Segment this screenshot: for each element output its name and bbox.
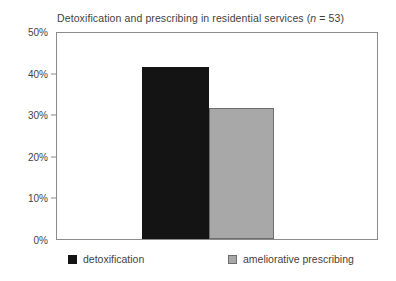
bars-layer [57, 33, 377, 239]
chart-title-prefix: Detoxification and prescribing in reside… [57, 12, 310, 24]
bar-detoxification [142, 67, 209, 239]
legend-entry-detoxification: detoxification [68, 253, 144, 265]
y-axis-tick-label: 20% [28, 151, 48, 162]
y-axis-tick-label: 0% [34, 235, 48, 246]
y-axis-tick-labels: 50%40%30%20%10%0% [0, 32, 48, 240]
y-axis-tick-label: 30% [28, 110, 48, 121]
bar-chart-figure: Detoxification and prescribing in reside… [0, 0, 396, 281]
y-axis-tick-label: 10% [28, 193, 48, 204]
chart-title: Detoxification and prescribing in reside… [57, 12, 344, 24]
bar-ameliorative-prescribing [209, 108, 274, 239]
legend-entry-label: ameliorative prescribing [243, 253, 354, 265]
chart-legend: detoxificationameliorative prescribing [56, 253, 378, 271]
black-square-swatch [68, 255, 77, 264]
legend-entry-label: detoxification [83, 253, 144, 265]
gray-square-swatch [228, 255, 237, 264]
y-axis-tick-label: 40% [28, 68, 48, 79]
legend-entry-ameliorative-prescribing: ameliorative prescribing [228, 253, 354, 265]
y-axis-tick-label: 50% [28, 27, 48, 38]
plot-area [56, 32, 378, 240]
chart-title-suffix: = 53) [316, 12, 344, 24]
